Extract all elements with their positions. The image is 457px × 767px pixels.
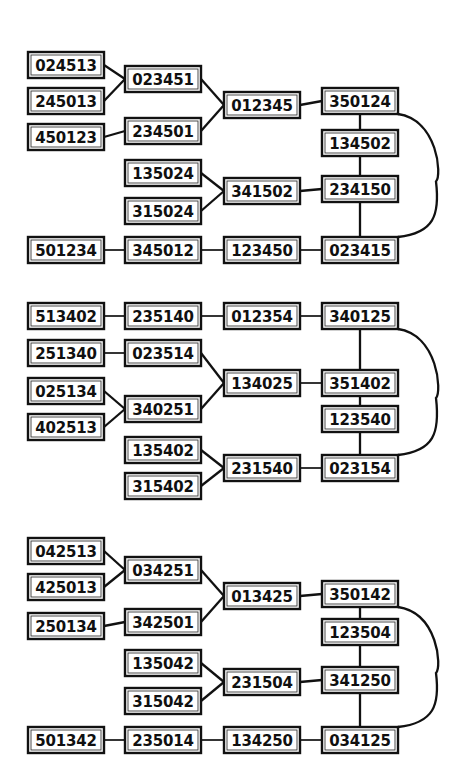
node-box	[322, 727, 398, 753]
node-box	[28, 613, 104, 639]
permutation-node[interactable]: 315042	[125, 688, 201, 714]
node-box	[125, 118, 201, 144]
permutation-node[interactable]: 501342	[28, 727, 104, 753]
permutation-node[interactable]: 023451	[125, 66, 201, 92]
permutation-node[interactable]: 350142	[322, 581, 398, 607]
permutation-node[interactable]: 501234	[28, 237, 104, 263]
permutation-node[interactable]: 024513	[28, 52, 104, 78]
node-box	[322, 303, 398, 329]
edge-connector	[104, 131, 125, 137]
edge-arc	[398, 114, 438, 237]
permutation-node[interactable]: 123504	[322, 619, 398, 645]
permutation-node[interactable]: 513402	[28, 303, 104, 329]
node-box	[28, 538, 104, 564]
node-box	[322, 406, 398, 432]
node-box	[125, 688, 201, 714]
figure-root: 0245132450134501230234512345010123453501…	[0, 0, 457, 767]
permutation-node[interactable]: 135042	[125, 650, 201, 676]
node-box	[125, 237, 201, 263]
permutation-node[interactable]: 135024	[125, 160, 201, 186]
permutation-node[interactable]: 023154	[322, 455, 398, 481]
permutation-node[interactable]: 341250	[322, 667, 398, 693]
permutation-node[interactable]: 231540	[224, 455, 300, 481]
permutation-node[interactable]: 012354	[224, 303, 300, 329]
edge-connector	[104, 622, 125, 626]
node-box	[224, 178, 300, 204]
edge-connector	[201, 682, 224, 701]
permutation-node[interactable]: 251340	[28, 340, 104, 366]
node-box	[125, 396, 201, 422]
permutation-node[interactable]: 013425	[224, 583, 300, 609]
permutation-node[interactable]: 023514	[125, 340, 201, 366]
node-box	[28, 378, 104, 404]
edge-connector	[104, 570, 125, 587]
permutation-node[interactable]: 350124	[322, 88, 398, 114]
permutation-node[interactable]: 351402	[322, 370, 398, 396]
node-box	[125, 340, 201, 366]
permutation-node[interactable]: 341502	[224, 178, 300, 204]
node-box	[322, 370, 398, 396]
permutation-node[interactable]: 134502	[322, 130, 398, 156]
node-box	[224, 92, 300, 118]
permutation-node[interactable]: 340125	[322, 303, 398, 329]
permutation-node[interactable]: 425013	[28, 574, 104, 600]
edge-connector	[300, 680, 322, 682]
permutation-node[interactable]: 134025	[224, 370, 300, 396]
node-box	[322, 581, 398, 607]
edge-connector	[300, 594, 322, 596]
node-box	[125, 66, 201, 92]
edge-connector	[104, 551, 125, 570]
node-box	[322, 237, 398, 263]
permutation-node[interactable]: 315402	[125, 473, 201, 499]
permutation-node[interactable]: 250134	[28, 613, 104, 639]
permutation-node[interactable]: 402513	[28, 414, 104, 440]
permutation-node[interactable]: 012345	[224, 92, 300, 118]
nodes-layer: 0245132450134501230234512345010123453501…	[28, 52, 398, 753]
edge-connector	[201, 173, 224, 191]
node-box	[125, 557, 201, 583]
permutation-node[interactable]: 135402	[125, 437, 201, 463]
edge-connector	[201, 191, 224, 211]
permutation-node[interactable]: 134250	[224, 727, 300, 753]
node-box	[28, 124, 104, 150]
permutation-node[interactable]: 231504	[224, 669, 300, 695]
node-box	[28, 88, 104, 114]
permutation-node[interactable]: 042513	[28, 538, 104, 564]
edge-connector	[201, 383, 224, 409]
edge-connector	[104, 391, 125, 409]
edge-connector	[300, 189, 322, 191]
permutation-node[interactable]: 023415	[322, 237, 398, 263]
permutation-node[interactable]: 450123	[28, 124, 104, 150]
permutation-node[interactable]: 123540	[322, 406, 398, 432]
node-box	[125, 160, 201, 186]
edge-connector	[201, 663, 224, 682]
node-box	[322, 619, 398, 645]
node-box	[224, 727, 300, 753]
edge-connector	[201, 105, 224, 131]
node-box	[28, 237, 104, 263]
edge-connector	[300, 101, 322, 105]
permutation-node[interactable]: 235014	[125, 727, 201, 753]
edge-connector	[201, 570, 224, 596]
node-box	[125, 198, 201, 224]
permutation-node[interactable]: 345012	[125, 237, 201, 263]
permutation-node[interactable]: 315024	[125, 198, 201, 224]
permutation-node[interactable]: 123450	[224, 237, 300, 263]
permutation-node[interactable]: 034125	[322, 727, 398, 753]
permutation-node[interactable]: 340251	[125, 396, 201, 422]
node-box	[28, 303, 104, 329]
node-box	[125, 609, 201, 635]
permutation-node[interactable]: 025134	[28, 378, 104, 404]
permutation-node[interactable]: 235140	[125, 303, 201, 329]
node-box	[322, 455, 398, 481]
edge-connector	[104, 409, 125, 427]
permutation-node[interactable]: 342501	[125, 609, 201, 635]
permutation-node[interactable]: 234501	[125, 118, 201, 144]
node-box	[28, 340, 104, 366]
edge-connector	[201, 450, 224, 468]
permutation-node[interactable]: 245013	[28, 88, 104, 114]
permutation-node[interactable]: 234150	[322, 176, 398, 202]
edge-connector	[201, 468, 224, 486]
diagram-2-nodes: 5134022351400123543401252513400235140251…	[28, 303, 398, 499]
permutation-node[interactable]: 034251	[125, 557, 201, 583]
